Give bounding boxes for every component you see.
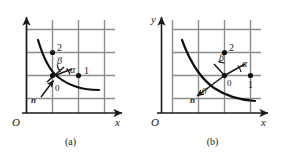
panel-a: 2 1 0 β α n O x (a) xyxy=(0,0,141,155)
node-1-dot xyxy=(248,73,253,78)
alpha-label: α xyxy=(70,65,75,75)
node-0-label: 0 xyxy=(55,84,60,93)
node-0-prime-label: 0′ xyxy=(202,87,208,96)
panel-b-caption: (b) xyxy=(142,136,283,147)
normal-vector-label: n xyxy=(190,96,195,105)
beta-label: β xyxy=(219,53,224,63)
interface-curve xyxy=(182,40,255,101)
x-axis-label: x xyxy=(261,117,266,128)
origin-label: O xyxy=(12,117,20,128)
normal-vector-label: n xyxy=(31,96,36,105)
node-2-label: 2 xyxy=(57,43,62,53)
panel-a-caption: (a) xyxy=(0,136,141,147)
x-axis-label: x xyxy=(115,117,120,128)
alpha-label: α xyxy=(242,59,247,69)
node-1-label: 1 xyxy=(248,80,253,90)
node-2-label: 2 xyxy=(229,43,234,53)
panel-a-drawing xyxy=(0,0,141,155)
y-axis-label: y xyxy=(151,14,156,25)
panel-b: 2 1 0 0′ β α n y O x (b) xyxy=(142,0,283,155)
node-0-label: 0 xyxy=(227,79,232,88)
figure-root: 2 1 0 β α n O x (a) xyxy=(0,0,283,155)
beta-label: β xyxy=(57,56,62,66)
normal-vector-arrow xyxy=(41,81,54,98)
node-1-dot xyxy=(76,73,81,78)
panel-b-drawing xyxy=(142,0,283,155)
node-2-dot xyxy=(50,50,55,55)
origin-label: O xyxy=(151,117,159,128)
node-1-label: 1 xyxy=(84,66,89,76)
node-0-dot xyxy=(50,73,55,78)
interface-curve xyxy=(38,40,99,90)
